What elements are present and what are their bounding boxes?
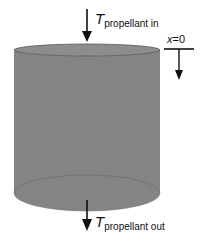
inlet-subscript: propellant in	[104, 18, 158, 29]
inlet-arrow-icon	[82, 9, 92, 42]
x-equals-zero: =0	[173, 33, 186, 45]
inlet-symbol: T	[95, 10, 104, 27]
outlet-label: Tpropellant out	[95, 213, 165, 230]
cylinder	[14, 44, 160, 211]
outlet-symbol: T	[95, 213, 104, 230]
inlet-label: Tpropellant in	[95, 10, 159, 27]
x-origin-label: x=0	[167, 33, 185, 45]
outlet-subscript: propellant out	[104, 221, 165, 232]
cylinder-body	[14, 50, 160, 211]
x-origin-marker-icon	[164, 49, 194, 80]
